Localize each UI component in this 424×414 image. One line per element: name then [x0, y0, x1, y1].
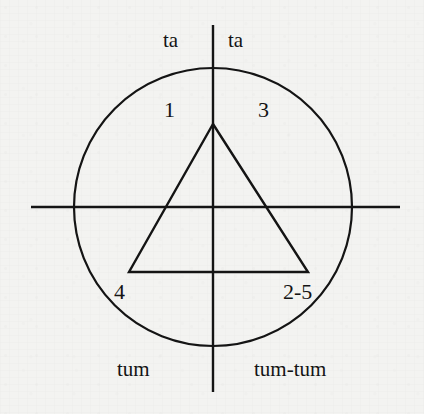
label-top-left-ta: ta	[163, 30, 178, 51]
label-bottom-right-tum-tum: tum-tum	[254, 359, 326, 380]
inscribed-triangle	[129, 124, 308, 272]
label-top-right-ta: ta	[228, 30, 243, 51]
label-quadrant-upper-left: 1	[164, 99, 175, 121]
diagram-canvas: ta ta 1 3 4 2-5 tum tum-tum	[0, 0, 424, 414]
circle-triangle-figure	[0, 0, 424, 414]
label-bottom-left-tum: tum	[117, 359, 150, 380]
label-quadrant-upper-right: 3	[258, 99, 269, 121]
label-quadrant-lower-left: 4	[114, 281, 125, 303]
label-quadrant-lower-right: 2-5	[283, 281, 312, 303]
